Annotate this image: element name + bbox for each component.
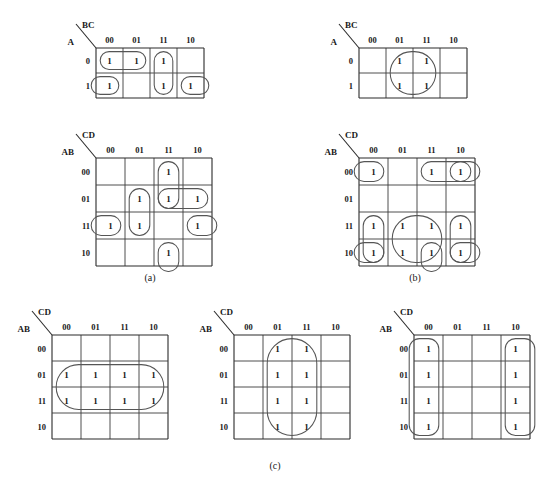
col-header-b-top-2: 11 (422, 35, 430, 45)
kmap-cell-b-top-r0c1: 1 (397, 56, 402, 66)
col-header-c-right-3: 10 (511, 322, 520, 332)
kmap-a-top-loop-row1-col00 (91, 77, 119, 95)
col-header-b-bottom-0: 00 (369, 145, 378, 155)
kmap-cell-c-left-r2c1: 1 (93, 396, 98, 406)
col-header-c-left-2: 11 (120, 322, 128, 332)
kmap-grid-a-bottom (96, 158, 212, 266)
col-header-c-middle-0: 00 (244, 322, 253, 332)
kmap-cell-b-bottom-r0c0: 1 (371, 167, 376, 177)
kmap-cell-b-bottom-r3c3: 1 (458, 248, 463, 258)
kmap-cell-a-bottom-r1c1: 1 (137, 194, 142, 204)
kmap-cell-c-left-r2c2: 1 (122, 396, 127, 406)
row-header-b-top-1: 1 (349, 81, 353, 91)
row-var-label-c-middle: AB (199, 324, 212, 334)
row-header-a-top-1: 1 (86, 81, 90, 91)
kmap-cell-a-bottom-r3c2: 1 (166, 248, 171, 258)
kmap-cell-b-bottom-r2c3: 1 (458, 221, 463, 231)
col-header-c-left-1: 01 (91, 322, 100, 332)
col-header-a-bottom-2: 11 (164, 145, 172, 155)
kmap-cell-c-right-r1c0: 1 (426, 370, 431, 380)
col-var-label-b-top: BC (345, 20, 358, 30)
kmap-cell-c-middle-r2c1: 1 (275, 396, 280, 406)
row-var-label-a-top: A (68, 37, 75, 47)
col-header-b-bottom-2: 11 (427, 145, 435, 155)
kmap-cell-c-middle-r2c2: 1 (304, 396, 309, 406)
col-header-c-right-2: 11 (482, 322, 490, 332)
row-header-b-top-0: 0 (349, 56, 353, 66)
row-header-c-middle-1: 01 (220, 370, 229, 380)
col-header-c-right-1: 01 (453, 322, 462, 332)
col-header-b-top-1: 01 (395, 35, 404, 45)
kmap-cell-c-right-r3c3: 1 (513, 422, 518, 432)
figure-caption-b: (b) (385, 272, 445, 283)
col-header-a-top-3: 10 (186, 35, 195, 45)
col-header-c-left-0: 00 (62, 322, 71, 332)
col-header-b-top-3: 10 (449, 35, 458, 45)
kmap-a-top-loop-row1-col10 (181, 77, 209, 95)
col-header-c-middle-1: 01 (273, 322, 282, 332)
kmap-cell-c-left-r2c0: 1 (64, 396, 69, 406)
kmap-svg-c-middle: CDAB000111100001111011111111 (200, 305, 362, 449)
row-var-label-b-bottom: AB (324, 147, 337, 157)
row-header-a-top-0: 0 (86, 56, 90, 66)
col-header-c-left-3: 10 (149, 322, 158, 332)
kmap-cell-a-top-r0c0: 1 (107, 56, 112, 66)
col-header-c-right-0: 00 (424, 322, 433, 332)
kmap-c-middle: CDAB000111100001111011111111 (200, 305, 362, 449)
row-header-c-left-0: 00 (38, 344, 47, 354)
kmap-cell-c-right-r3c0: 1 (426, 422, 431, 432)
row-header-b-bottom-2: 11 (345, 221, 353, 231)
kmap-cell-c-right-r0c3: 1 (513, 344, 518, 354)
kmap-cell-c-left-r1c2: 1 (122, 370, 127, 380)
row-header-c-left-3: 10 (38, 422, 47, 432)
row-header-b-bottom-3: 10 (345, 248, 354, 258)
kmap-cell-b-bottom-r3c0: 1 (371, 248, 376, 258)
kmap-svg-c-right: CDAB000111100001111011111111 (380, 305, 542, 449)
col-var-label-c-left: CD (38, 307, 51, 317)
kmap-b-top: BCA00011110011111 (325, 18, 479, 108)
kmap-cell-c-right-r2c3: 1 (513, 396, 518, 406)
row-header-a-bottom-0: 00 (82, 167, 91, 177)
figure-caption-c: (c) (245, 460, 305, 471)
col-var-label-c-right: CD (400, 307, 413, 317)
col-var-label-a-bottom: CD (82, 130, 95, 140)
col-header-b-bottom-3: 10 (456, 145, 465, 155)
kmap-cell-b-bottom-r0c3: 1 (458, 167, 463, 177)
col-header-a-bottom-0: 00 (106, 145, 115, 155)
row-header-b-bottom-1: 01 (345, 194, 354, 204)
col-header-a-top-2: 11 (159, 35, 167, 45)
kmap-c-left: CDAB000111100001111011111111 (18, 305, 180, 449)
kmap-cell-b-bottom-r0c2: 1 (429, 167, 434, 177)
kmap-a-bottom: CDAB000111100001111011111111 (62, 128, 224, 276)
col-var-label-b-bottom: CD (345, 130, 358, 140)
row-var-label-b-top: A (331, 37, 338, 47)
col-header-a-bottom-3: 10 (193, 145, 202, 155)
kmap-cell-b-bottom-r3c1: 1 (400, 248, 405, 258)
kmap-grid-c-middle (234, 335, 350, 439)
kmap-cell-a-bottom-r1c2: 1 (166, 194, 171, 204)
kmap-a-top: BCA0001111001111111 (62, 18, 216, 108)
col-var-label-c-middle: CD (220, 307, 233, 317)
kmap-cell-a-top-r1c3: 1 (188, 81, 193, 91)
row-header-c-middle-3: 10 (220, 422, 229, 432)
kmap-cell-b-bottom-r2c0: 1 (371, 221, 376, 231)
col-header-b-bottom-1: 01 (398, 145, 407, 155)
kmap-cell-c-left-r1c3: 1 (151, 370, 156, 380)
kmap-svg-b-bottom: CDAB000111100001111011111111111 (325, 128, 487, 276)
row-var-label-c-right: AB (379, 324, 392, 334)
kmap-grid-c-left (52, 335, 168, 439)
kmap-svg-a-bottom: CDAB000111100001111011111111 (62, 128, 224, 276)
kmap-cell-b-bottom-r2c2: 1 (429, 221, 434, 231)
kmap-b-bottom: CDAB000111100001111011111111111 (325, 128, 487, 276)
kmap-figure: BCA0001111001111111CDAB00011110000111101… (0, 0, 547, 482)
kmap-cell-b-bottom-r2c1: 1 (400, 221, 405, 231)
row-header-c-right-3: 10 (400, 422, 409, 432)
row-header-c-left-1: 01 (38, 370, 47, 380)
row-header-b-bottom-0: 00 (345, 167, 354, 177)
kmap-cell-c-left-r1c1: 1 (93, 370, 98, 380)
figure-caption-a: (a) (120, 272, 180, 283)
col-header-c-middle-2: 11 (302, 322, 310, 332)
row-header-c-right-1: 01 (400, 370, 409, 380)
kmap-cell-c-right-r1c3: 1 (513, 370, 518, 380)
kmap-grid-b-top (359, 48, 467, 98)
